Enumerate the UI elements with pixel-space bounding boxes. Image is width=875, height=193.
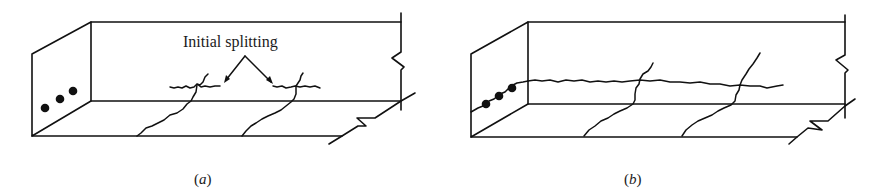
splitting-crack-longitudinal [528, 80, 783, 88]
rebar-dot [69, 87, 78, 96]
flexural-crack-right [682, 53, 760, 136]
flexural-crack-left [584, 63, 653, 136]
flexural-crack-right [242, 87, 296, 136]
splitting-crack-right [273, 73, 320, 88]
caption-a: (a) [194, 171, 212, 188]
caption-b: (b) [624, 171, 642, 188]
rebar-dot [56, 95, 65, 104]
break-line-vertical [836, 15, 848, 118]
flexural-crack-left [137, 85, 197, 136]
annotation-initial-splitting: Initial splitting [183, 33, 278, 51]
panel-a: Initial splitting (a) [32, 13, 415, 188]
rebar-dot [41, 104, 50, 113]
break-line-vertical [392, 13, 404, 110]
panel-b: (b) [471, 15, 855, 188]
figure-canvas: Initial splitting (a) (b) [0, 0, 875, 193]
break-line-bottom [789, 99, 855, 144]
splitting-crack-left [170, 74, 220, 88]
annotation-arrow-right [245, 56, 271, 82]
annotation-arrow-left [226, 56, 245, 80]
beam-end-face [32, 22, 91, 136]
beam-end-face [471, 22, 528, 137]
